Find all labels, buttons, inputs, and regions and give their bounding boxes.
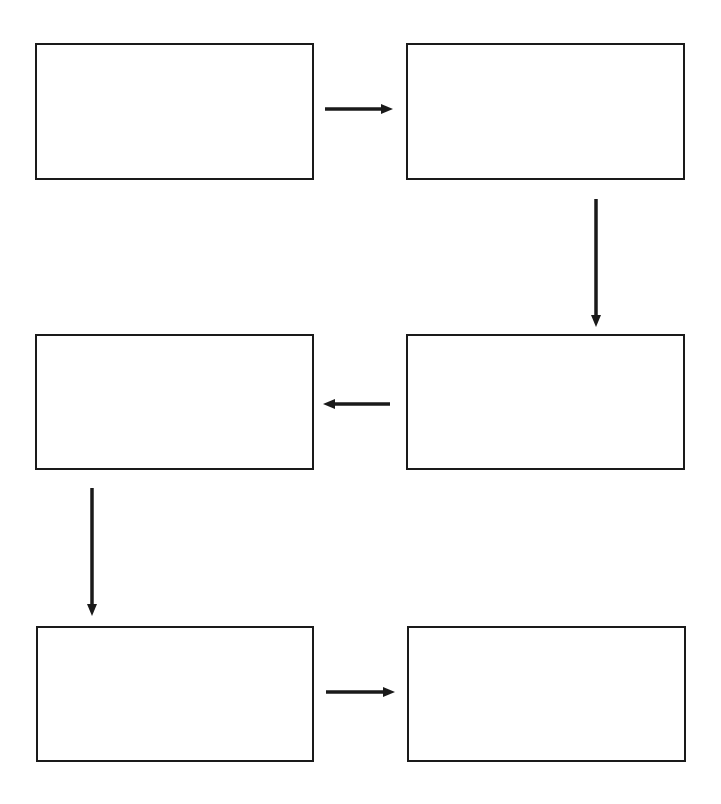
flow-box-step-6: [407, 626, 686, 762]
flow-box-step-4: [35, 334, 314, 470]
arrow-4-to-5-down-arrow-icon: [87, 488, 97, 616]
flow-box-step-5: [36, 626, 314, 762]
flow-box-step-1: [35, 43, 314, 180]
arrow-2-to-3-down-arrow-icon: [591, 199, 601, 327]
flow-box-step-2: [406, 43, 685, 180]
arrow-1-to-2-right-arrow-icon: [325, 104, 393, 114]
arrow-3-to-4-left-arrow-icon: [323, 399, 390, 409]
arrow-5-to-6-right-arrow-icon: [326, 687, 395, 697]
flow-box-step-3: [406, 334, 685, 470]
